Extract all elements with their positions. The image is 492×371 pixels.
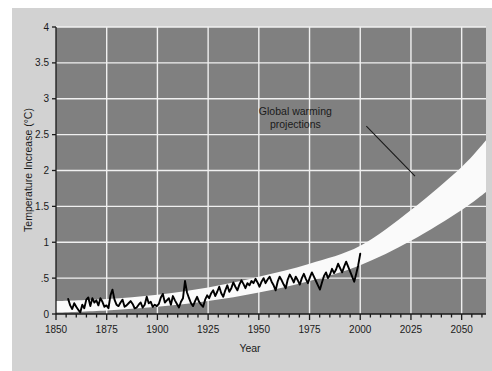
x-tick-label: 1850 bbox=[45, 324, 68, 335]
x-tick-label: 1950 bbox=[248, 324, 271, 335]
x-tick-label: 2000 bbox=[349, 324, 372, 335]
x-tick-label: 1900 bbox=[146, 324, 169, 335]
x-tick-label: 1875 bbox=[96, 324, 119, 335]
x-tick-labels: 185018751900192519501975200020252050 bbox=[45, 324, 473, 335]
x-axis-label: Year bbox=[239, 342, 261, 354]
y-tick-label: 2 bbox=[43, 165, 49, 176]
chart-svg: 185018751900192519501975200020252050 0.5… bbox=[0, 0, 492, 371]
y-axis-label: Temperature Increase (°C) bbox=[22, 108, 34, 232]
x-tick-label: 1975 bbox=[298, 324, 321, 335]
chart-figure: 185018751900192519501975200020252050 0.5… bbox=[0, 0, 492, 371]
annotation-line-1: Global warming bbox=[259, 105, 332, 117]
y-tick-label: .5 bbox=[41, 273, 50, 284]
y-tick-label: 3.5 bbox=[35, 57, 49, 68]
x-tick-label: 2050 bbox=[451, 324, 474, 335]
x-tick-label: 1925 bbox=[197, 324, 220, 335]
y-tick-label: 1.5 bbox=[35, 201, 49, 212]
y-tick-label: 1 bbox=[43, 237, 49, 248]
y-tick-label: 2.5 bbox=[35, 129, 49, 140]
annotation-line-2: projections bbox=[270, 118, 321, 130]
y-tick-label: 4 bbox=[43, 22, 49, 33]
y-tick-labels: 0.511.522.533.54 bbox=[35, 22, 49, 320]
y-tick-label: 3 bbox=[43, 93, 49, 104]
x-tick-label: 2025 bbox=[400, 324, 423, 335]
y-tick-label: 0 bbox=[43, 309, 49, 320]
